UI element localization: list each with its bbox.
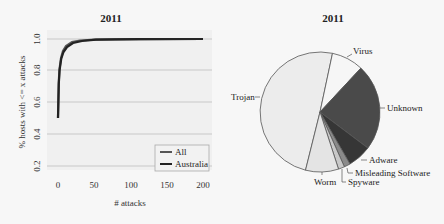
label-trojan: Trojan: [231, 92, 255, 102]
y-axis-label: % hosts with <= x attacks: [17, 55, 27, 148]
legend: All Australia: [155, 145, 209, 171]
svg-text:0: 0: [56, 180, 61, 190]
cdf-chart-plot: 1.0 0.8 0.6 0.4 0.2 % hosts with <= x at…: [0, 0, 222, 224]
svg-text:50: 50: [90, 180, 100, 190]
label-worm: Worm: [314, 177, 336, 187]
cdf-chart-panel: 2011 1.0 0.8 0.6 0.4 0.2 % hosts with <=…: [0, 0, 222, 224]
label-virus: Virus: [353, 46, 373, 56]
legend-all: All: [175, 147, 187, 157]
label-unknown: Unknown: [387, 103, 423, 113]
svg-text:150: 150: [160, 180, 174, 190]
pie-chart-panel: 2011 Virus Unknown Adware: [222, 0, 444, 224]
svg-text:100: 100: [124, 180, 138, 190]
pie-slices: [260, 52, 380, 172]
svg-text:0.8: 0.8: [32, 64, 42, 76]
svg-text:0.6: 0.6: [32, 96, 42, 108]
label-spyware: Spyware: [348, 177, 380, 187]
x-tick-labels: 0 50 100 150 200: [56, 180, 211, 190]
pie-chart: Virus Unknown Adware Misleading Software…: [222, 0, 444, 224]
x-axis-label: # attacks: [114, 198, 146, 208]
legend-australia: Australia: [175, 159, 208, 169]
svg-text:200: 200: [196, 180, 210, 190]
svg-text:0.2: 0.2: [32, 160, 42, 171]
svg-text:1.0: 1.0: [32, 33, 42, 45]
svg-text:0.4: 0.4: [32, 128, 42, 140]
label-adware: Adware: [369, 155, 398, 165]
y-tick-labels: 1.0 0.8 0.6 0.4 0.2: [32, 33, 42, 172]
